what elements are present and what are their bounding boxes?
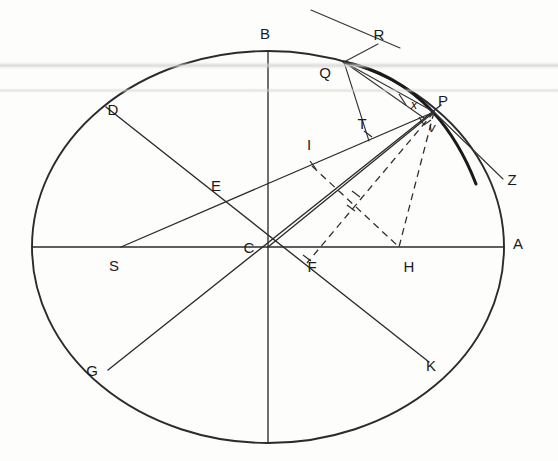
diameter-G-upper-right — [108, 105, 441, 370]
label-G: G — [86, 362, 98, 379]
label-B: B — [260, 25, 270, 42]
label-T: T — [357, 115, 366, 132]
label-F: F — [307, 258, 316, 275]
tangent-line-through-R — [311, 10, 400, 48]
label-K: K — [426, 357, 436, 374]
perp-tick-crossing-1 — [352, 191, 360, 197]
label-A: A — [513, 235, 523, 252]
label-x: x — [410, 97, 418, 112]
label-S: S — [109, 257, 119, 274]
label-P: P — [438, 92, 448, 109]
segment-Q-R — [344, 44, 378, 62]
radius-C-P — [268, 112, 434, 247]
label-Q: Q — [319, 64, 331, 81]
label-H: H — [404, 258, 415, 275]
label-E: E — [211, 177, 221, 194]
chord-S-P — [121, 112, 434, 247]
label-I: I — [307, 136, 311, 153]
label-D: D — [108, 101, 119, 118]
label-C: C — [244, 239, 255, 256]
dashed-I-H — [312, 166, 399, 247]
figure-root: B R Q D P x v T I Z E A C S F H G K — [0, 0, 558, 461]
label-v: v — [429, 120, 437, 135]
label-R: R — [374, 26, 385, 43]
label-Z: Z — [507, 171, 516, 188]
geometry-diagram: B R Q D P x v T I Z E A C S F H G K — [0, 0, 558, 461]
